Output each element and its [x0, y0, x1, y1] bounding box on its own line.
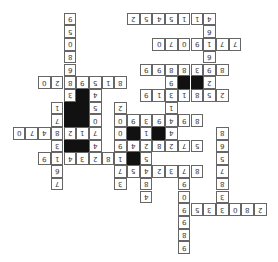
grid-cell[interactable]: 8 — [140, 178, 153, 191]
grid-cell[interactable]: 3 — [216, 203, 229, 216]
grid-cell[interactable]: 0 — [89, 114, 102, 127]
grid-cell[interactable]: 8 — [241, 203, 254, 216]
grid-cell[interactable]: 3 — [216, 191, 229, 204]
grid-cell[interactable]: 9 — [140, 64, 153, 77]
grid-cell[interactable]: 1 — [178, 89, 191, 102]
grid-cell[interactable]: 6 — [203, 51, 216, 64]
grid-cell[interactable]: 9 — [76, 76, 89, 89]
grid-cell[interactable]: 5 — [127, 165, 140, 178]
grid-cell[interactable]: 2 — [140, 140, 153, 153]
grid-cell[interactable]: 9 — [152, 114, 165, 127]
grid-cell[interactable]: 5 — [165, 13, 178, 26]
grid-cell[interactable]: 7 — [165, 38, 178, 51]
grid-cell[interactable]: 4 — [64, 152, 77, 165]
grid-cell[interactable]: 2 — [89, 152, 102, 165]
grid-cell[interactable]: 7 — [114, 165, 127, 178]
grid-cell[interactable]: 2 — [152, 165, 165, 178]
grid-cell[interactable]: 5 — [140, 13, 153, 26]
grid-cell[interactable]: 4 — [152, 13, 165, 26]
grid-cell[interactable]: 9 — [178, 216, 191, 229]
grid-cell[interactable]: 5 — [140, 152, 153, 165]
grid-cell[interactable]: 9 — [152, 64, 165, 77]
grid-cell[interactable]: 0 — [114, 127, 127, 140]
grid-cell[interactable]: 4 — [89, 89, 102, 102]
grid-cell[interactable]: 2 — [51, 76, 64, 89]
grid-cell[interactable]: 8 — [216, 64, 229, 77]
grid-cell[interactable]: 8 — [51, 127, 64, 140]
grid-cell[interactable]: 1 — [114, 152, 127, 165]
grid-cell[interactable]: 3 — [76, 152, 89, 165]
grid-cell[interactable]: 6 — [216, 140, 229, 153]
grid-cell[interactable]: 8 — [216, 127, 229, 140]
grid-cell[interactable]: 2 — [254, 203, 267, 216]
grid-cell[interactable]: 9 — [140, 89, 153, 102]
grid-cell[interactable]: 0 — [38, 76, 51, 89]
grid-cell[interactable]: 9 — [178, 241, 191, 254]
grid-cell[interactable]: 5 — [191, 203, 204, 216]
grid-cell[interactable]: 7 — [51, 178, 64, 191]
grid-cell[interactable]: 8 — [191, 89, 204, 102]
grid-cell[interactable]: 0 — [152, 38, 165, 51]
grid-cell[interactable]: 9 — [203, 64, 216, 77]
grid-cell[interactable]: 2 — [127, 13, 140, 26]
grid-cell[interactable]: 1 — [140, 127, 153, 140]
grid-cell[interactable]: 8 — [102, 152, 115, 165]
grid-cell[interactable]: 8 — [64, 51, 77, 64]
grid-cell[interactable]: 6 — [64, 64, 77, 77]
grid-cell[interactable]: 3 — [114, 178, 127, 191]
grid-cell[interactable]: 4 — [140, 165, 153, 178]
grid-cell[interactable]: 1 — [178, 13, 191, 26]
grid-cell[interactable]: 9 — [178, 203, 191, 216]
grid-cell[interactable]: 4 — [165, 127, 178, 140]
grid-cell[interactable]: 1 — [51, 152, 64, 165]
grid-cell[interactable]: 7 — [25, 127, 38, 140]
grid-cell[interactable]: 4 — [140, 191, 153, 204]
grid-cell[interactable]: 8 — [191, 114, 204, 127]
grid-cell[interactable]: 4 — [127, 140, 140, 153]
grid-cell[interactable]: 8 — [178, 229, 191, 242]
grid-cell[interactable]: 7 — [216, 165, 229, 178]
grid-cell[interactable]: 9 — [38, 152, 51, 165]
grid-cell[interactable]: 3 — [64, 89, 77, 102]
grid-cell[interactable]: 4 — [203, 13, 216, 26]
grid-cell[interactable]: 5 — [191, 140, 204, 153]
grid-cell[interactable]: 0 — [114, 114, 127, 127]
grid-cell[interactable]: 2 — [165, 140, 178, 153]
grid-cell[interactable]: 1 — [102, 76, 115, 89]
grid-cell[interactable]: 8 — [216, 178, 229, 191]
grid-cell[interactable]: 0 — [13, 127, 26, 140]
grid-cell[interactable]: 1 — [165, 102, 178, 115]
grid-cell[interactable]: 0 — [229, 203, 242, 216]
grid-cell[interactable]: 9 — [178, 114, 191, 127]
grid-cell[interactable]: 1 — [152, 89, 165, 102]
grid-cell[interactable]: 1 — [51, 102, 64, 115]
grid-cell[interactable]: 9 — [114, 140, 127, 153]
grid-cell[interactable]: 0 — [178, 38, 191, 51]
grid-cell[interactable]: 8 — [152, 140, 165, 153]
grid-cell[interactable]: 9 — [64, 13, 77, 26]
grid-cell[interactable]: 7 — [216, 38, 229, 51]
grid-cell[interactable]: 2 — [203, 76, 216, 89]
grid-cell[interactable]: 3 — [140, 114, 153, 127]
grid-cell[interactable]: 9 — [165, 76, 178, 89]
grid-cell[interactable]: 1 — [203, 38, 216, 51]
grid-cell[interactable]: 5 — [89, 76, 102, 89]
grid-cell[interactable]: 1 — [191, 13, 204, 26]
grid-cell[interactable]: 9 — [178, 178, 191, 191]
grid-cell[interactable]: 5 — [89, 102, 102, 115]
grid-cell[interactable]: 4 — [165, 114, 178, 127]
grid-cell[interactable]: 3 — [51, 140, 64, 153]
grid-cell[interactable]: 8 — [178, 64, 191, 77]
grid-cell[interactable]: 8 — [191, 165, 204, 178]
grid-cell[interactable]: 8 — [165, 64, 178, 77]
grid-cell[interactable]: 7 — [229, 38, 242, 51]
grid-cell[interactable]: 4 — [89, 140, 102, 153]
grid-cell[interactable]: 5 — [203, 89, 216, 102]
grid-cell[interactable]: 9 — [191, 38, 204, 51]
grid-cell[interactable]: 6 — [203, 25, 216, 38]
grid-cell[interactable]: 3 — [165, 89, 178, 102]
grid-cell[interactable]: 5 — [64, 25, 77, 38]
grid-cell[interactable]: 3 — [203, 203, 216, 216]
grid-cell[interactable]: 7 — [178, 140, 191, 153]
grid-cell[interactable]: 9 — [127, 114, 140, 127]
